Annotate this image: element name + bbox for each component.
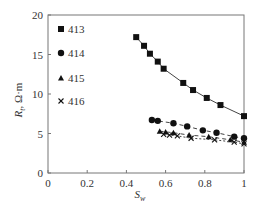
legend-label: 414 — [68, 47, 85, 59]
data-point — [149, 117, 155, 123]
y-tick-label: 15 — [32, 49, 44, 61]
data-point — [217, 102, 223, 108]
y-axis-label: Rt, Ω·m — [12, 82, 27, 118]
y-tick-label: 0 — [38, 167, 44, 179]
data-point — [213, 130, 219, 136]
data-point — [155, 118, 161, 124]
axis-ticks: 00.20.40.60.8105101520 — [32, 9, 247, 189]
legend-item-415: 415 — [58, 72, 85, 84]
data-point — [155, 59, 161, 65]
data-point — [200, 127, 206, 133]
series-layer — [133, 34, 247, 146]
data-point — [147, 51, 153, 57]
legend: 413414415416 — [58, 23, 85, 107]
x-tick-label: 0.8 — [198, 177, 212, 189]
legend-label: 415 — [68, 72, 85, 84]
legend-item-413: 413 — [58, 23, 85, 35]
y-tick-label: 20 — [32, 9, 44, 21]
data-point — [241, 113, 247, 119]
series-413 — [133, 34, 247, 119]
legend-item-416: 416 — [59, 95, 86, 107]
data-point — [190, 87, 196, 93]
legend-label: 416 — [68, 95, 85, 107]
data-point — [204, 95, 210, 101]
data-point — [161, 66, 167, 72]
triangle-marker-icon — [58, 75, 64, 81]
y-tick-label: 10 — [32, 88, 44, 100]
data-point — [170, 120, 176, 126]
y-tick-label: 5 — [38, 128, 44, 140]
x-tick-label: 1 — [241, 177, 247, 189]
legend-item-414: 414 — [58, 47, 85, 59]
data-point — [231, 133, 237, 139]
x-tick-label: 0.4 — [120, 177, 134, 189]
square-marker-icon — [58, 26, 64, 32]
plot-frame — [48, 15, 244, 173]
data-point — [180, 80, 186, 86]
x-tick-label: 0.2 — [80, 177, 94, 189]
x-tick-label: 0 — [45, 177, 51, 189]
data-point — [206, 134, 212, 140]
x-axis-label: Sw — [135, 188, 147, 203]
series-line — [136, 37, 244, 116]
cross-marker-icon — [59, 99, 64, 104]
series-414 — [149, 117, 248, 142]
data-point — [133, 34, 139, 40]
legend-label: 413 — [68, 23, 85, 35]
circle-marker-icon — [58, 50, 64, 56]
data-point — [184, 123, 190, 129]
chart-canvas: 00.20.40.60.8105101520 413414415416 Sw R… — [0, 0, 260, 214]
data-point — [141, 43, 147, 49]
x-tick-label: 0.6 — [159, 177, 173, 189]
